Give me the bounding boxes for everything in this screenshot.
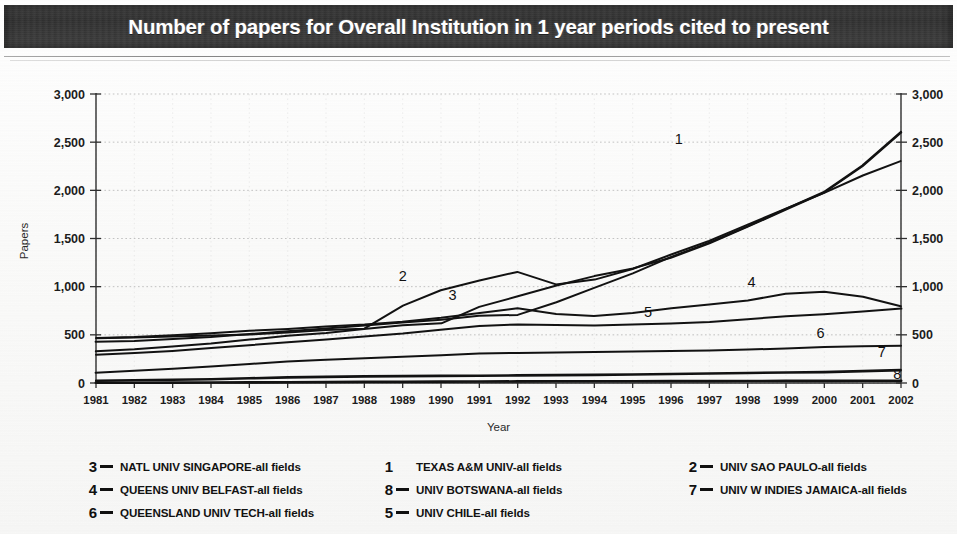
legend-series-number: 1 bbox=[380, 458, 393, 475]
svg-text:1990: 1990 bbox=[428, 394, 453, 406]
series-label-4: 4 bbox=[747, 274, 755, 290]
legend-series-number: 8 bbox=[380, 481, 393, 498]
y-axis-title: Papers bbox=[18, 223, 30, 260]
data-series-lines bbox=[96, 132, 902, 383]
svg-text:1998: 1998 bbox=[735, 394, 760, 406]
x-axis-title: Year bbox=[487, 421, 510, 433]
legend-item-label: QUEENSLAND UNIV TECH-all fields bbox=[120, 506, 314, 519]
svg-text:1,000: 1,000 bbox=[54, 280, 85, 294]
legend-line-swatch bbox=[100, 488, 113, 491]
legend-item-5[interactable]: 5UNIV CHILE-all fields bbox=[380, 501, 562, 524]
svg-text:1,500: 1,500 bbox=[912, 232, 943, 246]
header-divider bbox=[4, 56, 950, 57]
legend-item-6[interactable]: 6QUEENSLAND UNIV TECH-all fields bbox=[84, 501, 314, 524]
svg-text:1982: 1982 bbox=[122, 394, 147, 406]
svg-text:2,000: 2,000 bbox=[912, 184, 943, 198]
svg-text:1992: 1992 bbox=[505, 394, 530, 406]
svg-text:1987: 1987 bbox=[313, 394, 338, 406]
series-line-7 bbox=[96, 370, 900, 381]
svg-text:1981: 1981 bbox=[83, 394, 109, 406]
svg-text:1,000: 1,000 bbox=[912, 280, 943, 294]
legend-item-1[interactable]: 1TEXAS A&M UNIV-all fields bbox=[380, 455, 562, 478]
svg-text:2002: 2002 bbox=[888, 394, 913, 406]
legend-item-label: UNIV CHILE-all fields bbox=[416, 506, 530, 519]
series-label-3: 3 bbox=[448, 287, 456, 303]
svg-text:2,500: 2,500 bbox=[54, 136, 85, 150]
legend-item-label: UNIV SAO PAULO-all fields bbox=[720, 460, 867, 473]
legend-item-3[interactable]: 3NATL UNIV SINGAPORE-all fields bbox=[84, 455, 314, 478]
legend-line-swatch bbox=[396, 511, 409, 514]
x-axis-tick-labels: 1981198219831984198519861987198819891990… bbox=[83, 394, 913, 406]
legend-item-4[interactable]: 4QUEENS UNIV BELFAST-all fields bbox=[84, 478, 314, 501]
series-label-6: 6 bbox=[816, 325, 824, 341]
legend-column-2: 1TEXAS A&M UNIV-all fields8UNIV BOTSWANA… bbox=[380, 455, 562, 524]
svg-text:1989: 1989 bbox=[390, 394, 415, 406]
legend-line-swatch bbox=[100, 465, 113, 468]
svg-text:2,500: 2,500 bbox=[912, 136, 943, 150]
legend-line-swatch bbox=[700, 488, 713, 491]
chart-canvas: 3,0002,5002,0001,5001,0005000 3,0002,500… bbox=[0, 66, 957, 456]
series-line-2 bbox=[96, 161, 900, 338]
svg-text:1996: 1996 bbox=[658, 394, 683, 406]
svg-text:1994: 1994 bbox=[582, 394, 608, 406]
legend-series-number: 2 bbox=[684, 458, 697, 475]
legend-series-number: 5 bbox=[380, 504, 393, 521]
svg-text:1988: 1988 bbox=[352, 394, 377, 406]
series-label-5: 5 bbox=[644, 304, 652, 320]
svg-text:500: 500 bbox=[64, 328, 85, 342]
series-point-labels: 12345678 bbox=[399, 131, 902, 382]
svg-text:1995: 1995 bbox=[620, 394, 646, 406]
svg-text:1997: 1997 bbox=[697, 394, 722, 406]
legend-item-label: UNIV W INDIES JAMAICA-all fields bbox=[720, 483, 907, 496]
line-chart: 3,0002,5002,0001,5001,0005000 3,0002,500… bbox=[0, 66, 957, 456]
vertical-gridlines bbox=[96, 94, 901, 383]
svg-text:1999: 1999 bbox=[773, 394, 798, 406]
page-title: Number of papers for Overall Institution… bbox=[128, 15, 828, 39]
gridlines bbox=[96, 94, 901, 383]
series-line-3 bbox=[96, 133, 901, 352]
series-label-8: 8 bbox=[893, 366, 901, 382]
svg-text:1986: 1986 bbox=[275, 394, 300, 406]
svg-text:1991: 1991 bbox=[467, 394, 493, 406]
series-label-7: 7 bbox=[878, 344, 886, 360]
series-line-6 bbox=[96, 346, 901, 373]
legend-item-8[interactable]: 8UNIV BOTSWANA-all fields bbox=[380, 478, 562, 501]
svg-text:0: 0 bbox=[78, 377, 85, 391]
legend-item-2[interactable]: 2UNIV SAO PAULO-all fields bbox=[684, 455, 907, 478]
legend-line-swatch bbox=[396, 488, 409, 491]
legend-line-swatch bbox=[100, 511, 113, 514]
legend-line-swatch bbox=[700, 465, 713, 468]
chart-title-bar: Number of papers for Overall Institution… bbox=[4, 5, 953, 48]
y-axis-right-tick-labels: 3,0002,5002,0001,5001,0005000 bbox=[912, 88, 943, 391]
legend-line-swatch bbox=[396, 465, 409, 468]
legend-column-3: 2UNIV SAO PAULO-all fields7UNIV W INDIES… bbox=[684, 455, 907, 501]
svg-text:1993: 1993 bbox=[543, 394, 568, 406]
svg-text:0: 0 bbox=[912, 377, 919, 391]
series-label-2: 2 bbox=[399, 268, 407, 284]
legend-series-number: 3 bbox=[84, 458, 97, 475]
svg-text:1984: 1984 bbox=[198, 394, 224, 406]
header-divider-secondary bbox=[10, 60, 950, 61]
svg-text:2001: 2001 bbox=[850, 394, 876, 406]
svg-text:1985: 1985 bbox=[237, 394, 263, 406]
svg-text:3,000: 3,000 bbox=[54, 88, 85, 102]
svg-text:1,500: 1,500 bbox=[54, 232, 85, 246]
svg-text:1983: 1983 bbox=[160, 394, 185, 406]
legend-series-number: 4 bbox=[84, 481, 97, 498]
legend-item-label: UNIV BOTSWANA-all fields bbox=[416, 483, 562, 496]
legend-column-1: 3NATL UNIV SINGAPORE-all fields4QUEENS U… bbox=[84, 455, 314, 524]
legend-item-label: TEXAS A&M UNIV-all fields bbox=[416, 460, 562, 473]
svg-text:2000: 2000 bbox=[812, 394, 837, 406]
legend-series-number: 7 bbox=[684, 481, 697, 498]
y-axis-tick-labels: 3,0002,5002,0001,5001,0005000 bbox=[54, 88, 85, 391]
svg-text:500: 500 bbox=[912, 328, 933, 342]
svg-text:3,000: 3,000 bbox=[912, 88, 943, 102]
chart-legend: 3NATL UNIV SINGAPORE-all fields4QUEENS U… bbox=[0, 455, 957, 534]
series-label-1: 1 bbox=[675, 131, 683, 147]
legend-series-number: 6 bbox=[84, 504, 97, 521]
legend-item-label: NATL UNIV SINGAPORE-all fields bbox=[120, 460, 301, 473]
legend-item-7[interactable]: 7UNIV W INDIES JAMAICA-all fields bbox=[684, 478, 907, 501]
svg-text:2,000: 2,000 bbox=[54, 184, 85, 198]
legend-item-label: QUEENS UNIV BELFAST-all fields bbox=[120, 483, 303, 496]
